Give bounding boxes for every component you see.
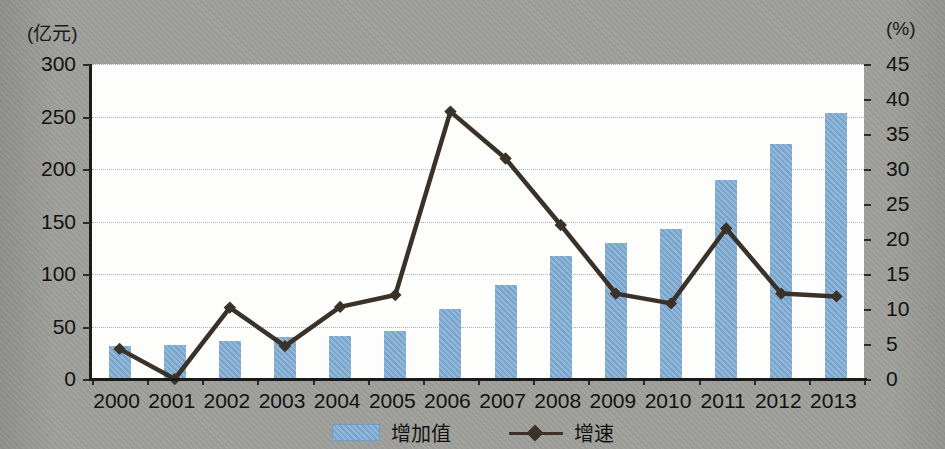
chart-legend: 增加值 增速 [0, 418, 945, 447]
x-axis-tick-label: 2006 [424, 389, 471, 413]
right-axis-tick-label: 20 [886, 227, 932, 251]
right-axis-tick [864, 99, 871, 101]
right-axis-unit-label: (%) [886, 18, 916, 40]
x-axis-tick-label: 2004 [314, 389, 361, 413]
left-axis-tick [83, 222, 90, 224]
x-axis-tick-label: 2008 [534, 389, 581, 413]
legend-bar-swatch-icon [332, 424, 380, 441]
right-axis-tick-label: 45 [886, 52, 932, 76]
right-axis-tick-label: 35 [886, 122, 932, 146]
x-axis-line [89, 378, 867, 381]
right-axis-tick [864, 134, 871, 136]
line-series: 2000: 4.3%2001: 0%2002: 10.2%2003: 4.7%2… [92, 64, 864, 379]
left-axis-tick [83, 64, 90, 66]
left-axis-tick-label: 200 [8, 157, 76, 181]
x-axis-tick-label: 2009 [589, 389, 636, 413]
right-axis-tick [864, 309, 871, 311]
left-axis-tick-label: 150 [8, 210, 76, 234]
x-axis-tick-label: 2007 [479, 389, 526, 413]
plot-inner: 2000: 4.3%2001: 0%2002: 10.2%2003: 4.7%2… [92, 64, 864, 379]
legend-line-swatch-icon [509, 426, 563, 440]
right-axis-tick-label: 0 [886, 367, 932, 391]
left-axis-tick-label: 300 [8, 52, 76, 76]
right-axis-tick [864, 239, 871, 241]
x-axis-tick-label: 2011 [701, 389, 746, 413]
line-path [120, 112, 837, 379]
chart-figure: (亿元) (%) 2000: 4.3%2001: 0%2002: 10.2%20… [0, 0, 945, 449]
legend-item-line: 增速 [509, 418, 614, 447]
plot-area: 2000: 4.3%2001: 0%2002: 10.2%2003: 4.7%2… [89, 64, 864, 379]
right-axis-tick [864, 204, 871, 206]
line-marker: 2005: 12% [389, 289, 401, 301]
left-axis-tick-label: 50 [8, 315, 76, 339]
x-axis-tick-label: 2013 [810, 389, 857, 413]
x-axis-tick-label: 2002 [203, 389, 250, 413]
left-axis-tick [83, 169, 90, 171]
x-axis-tick-label: 2003 [259, 389, 306, 413]
x-axis-tick-label: 2000 [93, 389, 140, 413]
right-axis-tick-label: 5 [886, 332, 932, 356]
left-axis-tick-label: 0 [8, 367, 76, 391]
left-axis-tick [83, 117, 90, 119]
x-axis-tick-label: 2012 [755, 389, 802, 413]
left-axis-tick [83, 327, 90, 329]
legend-line-label: 增速 [574, 418, 614, 447]
legend-bar-label: 增加值 [391, 418, 451, 447]
x-axis-tick-label: 2005 [369, 389, 416, 413]
x-axis-tick-label: 2001 [148, 389, 195, 413]
right-axis-tick [864, 274, 871, 276]
right-axis-tick-label: 10 [886, 297, 932, 321]
right-axis-tick [864, 169, 871, 171]
x-axis-tick-label: 2010 [645, 389, 692, 413]
right-axis-tick-label: 25 [886, 192, 932, 216]
right-axis-tick [864, 344, 871, 346]
left-axis-tick [83, 274, 90, 276]
left-axis-unit-label: (亿元) [27, 18, 78, 45]
left-axis-tick-label: 250 [8, 105, 76, 129]
right-axis-tick [864, 64, 871, 66]
right-axis-tick-label: 40 [886, 87, 932, 111]
right-axis-tick-label: 15 [886, 262, 932, 286]
legend-item-bar: 增加值 [332, 418, 451, 447]
left-axis-tick-label: 100 [8, 262, 76, 286]
right-axis-tick-label: 30 [886, 157, 932, 181]
line-marker: 2013: 11.8% [830, 290, 842, 302]
